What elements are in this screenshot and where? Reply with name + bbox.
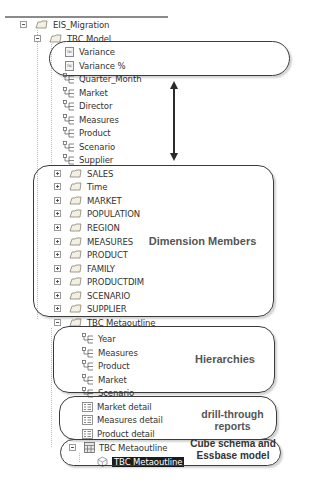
node-label: Measures — [79, 115, 119, 125]
node-label: Product — [79, 128, 111, 138]
callout-calculated-members — [49, 41, 290, 76]
collapse-icon[interactable] — [20, 21, 27, 28]
tree-node-hierarchy[interactable]: Measures — [63, 113, 119, 126]
tree-node-hierarchy[interactable]: Product — [63, 126, 111, 139]
callout-label-dimension-members: Dimension Members — [130, 235, 275, 248]
tree-node-hierarchy[interactable]: Scenario — [63, 140, 115, 153]
callout-label-cube-schema: Cube schema and Essbase model — [178, 438, 288, 461]
hierarchy-icon — [63, 127, 75, 138]
folder-icon — [35, 20, 49, 29]
hierarchy-icon — [63, 114, 75, 125]
node-label: Market — [79, 88, 108, 98]
node-label: Director — [79, 101, 112, 111]
double-arrow-icon — [170, 81, 178, 161]
node-label: EIS_Migration — [53, 20, 109, 30]
tree-node-eis-migration[interactable]: EIS_Migration — [20, 18, 109, 31]
callout-label-drill-line2: reports — [185, 420, 280, 432]
hierarchy-icon — [63, 154, 75, 165]
callout-label-drill-line1: drill-through — [185, 408, 280, 420]
node-label: Scenario — [79, 142, 115, 152]
callout-label-drill-through: drill-through reports — [185, 408, 280, 432]
hierarchy-icon — [63, 141, 75, 152]
hierarchy-icon — [63, 87, 75, 98]
tree-node-hierarchy[interactable]: Market — [63, 86, 108, 99]
callout-label-hierarchies: Hierarchies — [190, 353, 260, 366]
node-label: Supplier — [79, 155, 113, 165]
callout-label-cube-line2: Essbase model — [178, 450, 288, 462]
tree-node-hierarchy[interactable]: Director — [63, 99, 112, 112]
collapse-icon[interactable] — [34, 35, 41, 42]
callout-label-cube-line1: Cube schema and — [178, 438, 288, 450]
hierarchy-icon — [63, 100, 75, 111]
tree-guide — [51, 328, 52, 448]
collapse-icon[interactable] — [54, 319, 61, 326]
